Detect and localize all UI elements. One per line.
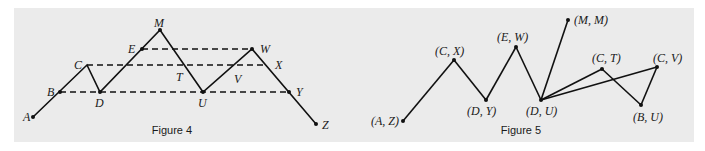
edge <box>516 47 541 100</box>
label-V: V <box>234 72 243 86</box>
label-Z: Z <box>322 118 329 132</box>
node-point <box>514 45 518 49</box>
point-E <box>140 47 144 51</box>
node-point <box>600 67 604 71</box>
edge <box>454 60 486 100</box>
label-W: W <box>260 42 271 56</box>
node-label: (A, Z) <box>371 114 399 128</box>
node-label: (B, U) <box>633 110 663 124</box>
label-B: B <box>47 85 55 99</box>
node-label: (M, M) <box>574 13 608 27</box>
node-point <box>566 18 570 22</box>
figure-4-caption: Figure 4 <box>152 124 192 136</box>
label-Y: Y <box>296 85 304 99</box>
label-E: E <box>127 42 136 56</box>
node-label: (D, Y) <box>467 104 496 118</box>
node-point <box>639 103 643 107</box>
figure-5-caption: Figure 5 <box>501 124 541 136</box>
point-Y <box>287 90 291 94</box>
figures-canvas: ABCDEMTUVWXYZ (A, Z)(C, X)(D, Y)(E, W)(D… <box>0 0 705 151</box>
edge <box>403 60 454 121</box>
node-point <box>655 65 659 69</box>
label-C: C <box>74 58 83 72</box>
label-T: T <box>176 70 184 84</box>
node-label: (E, W) <box>497 30 528 44</box>
edge <box>486 47 516 100</box>
edge <box>641 67 657 105</box>
node-label: (C, V) <box>653 51 682 65</box>
label-X: X <box>274 58 283 72</box>
point-D <box>98 90 102 94</box>
edge <box>602 69 641 105</box>
node-point <box>539 98 543 102</box>
mountain-path <box>33 30 316 124</box>
node-point <box>452 58 456 62</box>
node-point <box>484 98 488 102</box>
label-M: M <box>153 16 165 30</box>
node-label: (D, U) <box>526 104 557 118</box>
figure-5: (A, Z)(C, X)(D, Y)(E, W)(D, U)(M, M)(C, … <box>371 13 682 128</box>
figure-4: ABCDEMTUVWXYZ <box>22 16 329 132</box>
node-label: (C, X) <box>435 44 464 58</box>
label-A: A <box>22 110 31 124</box>
point-B <box>58 90 62 94</box>
point-A <box>31 115 35 119</box>
point-U <box>201 90 205 94</box>
label-D: D <box>94 96 104 110</box>
point-W <box>250 47 254 51</box>
node-label: (C, T) <box>592 51 621 65</box>
edge <box>541 67 657 100</box>
node-point <box>401 119 405 123</box>
point-Z <box>314 122 318 126</box>
label-U: U <box>198 96 208 110</box>
